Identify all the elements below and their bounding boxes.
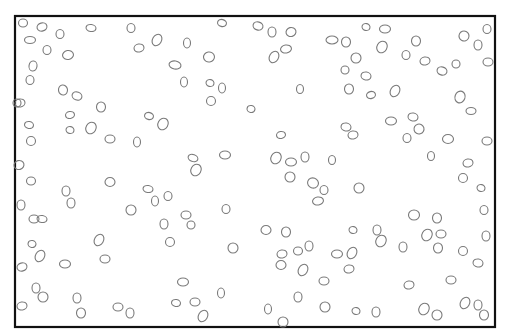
particle-ellipse bbox=[320, 186, 328, 195]
particle-ellipse bbox=[354, 183, 364, 193]
particle-ellipse bbox=[361, 23, 371, 32]
particle-ellipse bbox=[428, 152, 435, 161]
particle-ellipse bbox=[190, 298, 200, 306]
particle-ellipse bbox=[480, 206, 488, 215]
particle-ellipse bbox=[388, 84, 402, 99]
particle-ellipse bbox=[453, 90, 467, 105]
particle-ellipse bbox=[196, 309, 210, 324]
particle-ellipse bbox=[483, 58, 493, 66]
particle-ellipse bbox=[348, 226, 358, 235]
particle-ellipse bbox=[342, 37, 351, 47]
particle-ellipse bbox=[409, 210, 420, 220]
particle-ellipse bbox=[62, 50, 74, 61]
particle-ellipse bbox=[340, 122, 351, 132]
particle-ellipse bbox=[205, 79, 215, 88]
particle-ellipse bbox=[269, 150, 284, 165]
particle-ellipse bbox=[320, 302, 330, 312]
particle-ellipse bbox=[306, 176, 320, 189]
particle-ellipse bbox=[412, 36, 421, 46]
particle-ellipse bbox=[181, 77, 188, 87]
particle-ellipse bbox=[268, 27, 276, 37]
particle-ellipse bbox=[297, 85, 304, 94]
particle-ellipse bbox=[97, 102, 106, 112]
particle-ellipse bbox=[436, 230, 446, 238]
particle-ellipse bbox=[267, 50, 281, 65]
particle-ellipse bbox=[58, 84, 69, 95]
particle-ellipse bbox=[347, 130, 358, 140]
particle-ellipse bbox=[26, 76, 34, 85]
particle-ellipse bbox=[285, 172, 295, 182]
particle-ellipse bbox=[403, 280, 414, 290]
particle-ellipse bbox=[459, 247, 468, 256]
particle-ellipse bbox=[65, 126, 75, 135]
particle-ellipse bbox=[407, 112, 418, 122]
particle-ellipse bbox=[466, 108, 476, 115]
particle-ellipse bbox=[203, 51, 216, 63]
particle-ellipse bbox=[38, 292, 48, 302]
particle-ellipse bbox=[160, 219, 168, 229]
particle-ellipse bbox=[420, 227, 435, 242]
particle-ellipse bbox=[374, 233, 389, 248]
particle-ellipse bbox=[452, 60, 460, 68]
particle-ellipse bbox=[459, 174, 468, 183]
particle-ellipse bbox=[100, 255, 110, 263]
particle-ellipse bbox=[142, 185, 153, 194]
particle-ellipse bbox=[228, 243, 238, 253]
particle-ellipse bbox=[246, 105, 255, 113]
particle-ellipse bbox=[178, 278, 189, 286]
particle-ellipse bbox=[474, 300, 482, 310]
particle-ellipse bbox=[380, 25, 391, 33]
particle-ellipse bbox=[187, 221, 195, 229]
particle-ellipse bbox=[144, 111, 155, 120]
particle-ellipse bbox=[482, 231, 490, 241]
particle-ellipse bbox=[366, 90, 377, 99]
particle-ellipse bbox=[113, 303, 123, 311]
particle-ellipse bbox=[282, 227, 291, 237]
particle-ellipse bbox=[276, 249, 287, 259]
diagram-frame bbox=[15, 16, 495, 327]
particle-ellipse bbox=[403, 134, 411, 143]
particle-ellipse bbox=[27, 240, 36, 248]
particle-ellipse bbox=[17, 200, 25, 210]
particle-ellipse bbox=[65, 111, 75, 119]
particle-ellipse bbox=[446, 276, 456, 284]
particle-ellipse bbox=[417, 301, 432, 316]
particle-ellipse bbox=[480, 310, 489, 320]
particle-ellipse bbox=[32, 283, 40, 293]
particle-ellipse bbox=[73, 293, 81, 303]
particle-ellipse bbox=[27, 177, 36, 185]
particle-ellipse bbox=[166, 238, 175, 247]
particle-ellipse bbox=[217, 18, 228, 27]
particle-ellipse bbox=[280, 44, 292, 54]
particle-ellipse bbox=[375, 39, 390, 54]
particle-ellipse bbox=[181, 211, 191, 219]
particle-ellipse bbox=[19, 19, 28, 27]
particle-ellipse bbox=[483, 25, 491, 34]
particle-ellipse bbox=[252, 21, 264, 31]
particle-ellipse bbox=[386, 117, 397, 125]
particle-ellipse bbox=[402, 51, 410, 60]
particle-ellipse bbox=[77, 308, 86, 318]
particle-ellipse bbox=[278, 317, 288, 327]
particle-ellipse bbox=[351, 53, 361, 63]
particle-ellipse bbox=[312, 196, 324, 206]
particle-ellipse bbox=[36, 22, 48, 32]
particle-ellipse bbox=[156, 116, 171, 131]
particle-ellipse bbox=[150, 33, 164, 48]
particle-ellipse bbox=[261, 226, 271, 235]
particle-ellipse bbox=[458, 30, 471, 43]
particle-ellipse bbox=[207, 97, 216, 106]
particle-diagram bbox=[0, 0, 508, 334]
particle-ellipse bbox=[127, 24, 135, 33]
particle-ellipse bbox=[62, 186, 70, 196]
particle-ellipse bbox=[305, 241, 313, 251]
particle-ellipse bbox=[294, 292, 302, 302]
particle-ellipse bbox=[105, 178, 115, 187]
particle-ellipse bbox=[432, 310, 442, 320]
particle-ellipse bbox=[126, 205, 136, 215]
particle-ellipse bbox=[133, 43, 144, 53]
particle-ellipse bbox=[85, 24, 96, 33]
particle-ellipse bbox=[168, 60, 181, 70]
particle-ellipse bbox=[399, 242, 407, 252]
particle-ellipse bbox=[286, 158, 297, 166]
